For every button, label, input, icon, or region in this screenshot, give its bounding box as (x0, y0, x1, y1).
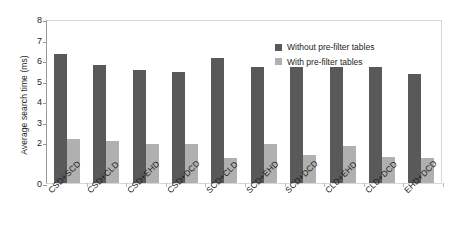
y-tick-mark (43, 83, 47, 84)
y-tick-label: 7 (22, 36, 42, 46)
bar-group (86, 21, 125, 183)
bar-without-prefilter (251, 67, 264, 183)
bar-group (126, 21, 165, 183)
y-tick-label: 6 (22, 56, 42, 66)
y-tick-label: 8 (22, 15, 42, 25)
y-tick-label: 4 (22, 97, 42, 107)
bar-group (47, 21, 86, 183)
legend-swatch-icon (275, 44, 282, 51)
bar-chart: Average search time (ms) 02345678 Withou… (0, 0, 451, 237)
legend-label: Without pre-filter tables (287, 43, 374, 52)
bar-without-prefilter (211, 58, 224, 183)
y-tick-mark (43, 124, 47, 125)
y-tick-label: 2 (22, 138, 42, 148)
chart-legend: Without pre-filter tablesWith pre-filter… (275, 43, 374, 72)
bar-without-prefilter (54, 54, 67, 183)
bar-without-prefilter (369, 67, 382, 183)
bar-group (402, 21, 441, 183)
legend-item: With pre-filter tables (275, 58, 374, 67)
bar-groups (47, 21, 441, 183)
y-tick-label: 0 (22, 179, 42, 189)
legend-label: With pre-filter tables (287, 58, 363, 67)
y-tick-mark (43, 144, 47, 145)
x-tick-mark (443, 183, 444, 187)
y-tick-label: 3 (22, 118, 42, 128)
bar-group (205, 21, 244, 183)
bar-group (165, 21, 204, 183)
y-axis-tick-labels: 02345678 (22, 14, 42, 186)
y-tick-mark (43, 62, 47, 63)
legend-swatch-icon (275, 58, 282, 65)
y-tick-mark (43, 103, 47, 104)
y-tick-label: 5 (22, 77, 42, 87)
legend-item: Without pre-filter tables (275, 43, 374, 52)
bar-without-prefilter (290, 67, 303, 183)
bar-without-prefilter (133, 70, 146, 183)
plot-area: Without pre-filter tablesWith pre-filter… (46, 20, 442, 184)
bar-without-prefilter (93, 65, 106, 183)
bar-without-prefilter (408, 74, 421, 183)
y-tick-mark (43, 21, 47, 22)
y-tick-mark (43, 42, 47, 43)
x-axis-tick-labels: CSD+SCDCSD+CLDCSD+EHDCSD+DCDSCD+CLDSCD+E… (46, 184, 442, 237)
bar-without-prefilter (172, 72, 185, 183)
bar-without-prefilter (330, 67, 343, 183)
